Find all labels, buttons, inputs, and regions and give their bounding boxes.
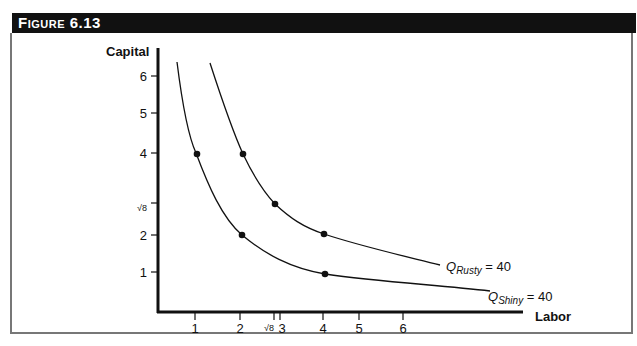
- data-point: [239, 232, 246, 239]
- isoquant-chart: Capital Labor 6 5 4 √8 2 1 1 2 √8 3 4 5 …: [0, 0, 637, 346]
- shiny-q: Q: [488, 289, 498, 304]
- data-point: [240, 151, 247, 158]
- x-ticks: 1 2 √8 3 4 5 6: [191, 312, 406, 336]
- x-tick-label: 5: [355, 321, 362, 336]
- data-point: [322, 271, 329, 278]
- rusty-q: Q: [446, 259, 456, 274]
- x-axis-label: Labor: [535, 309, 571, 324]
- x-tick-label: 6: [399, 321, 406, 336]
- x-tick-label: 2: [236, 321, 243, 336]
- rusty-subscript: Rusty: [456, 265, 483, 276]
- y-tick-label: 2: [140, 228, 147, 243]
- x-tick-label: 3: [278, 321, 285, 336]
- y-tick-label: 6: [140, 69, 147, 84]
- data-point: [321, 231, 328, 238]
- shiny-eq: = 40: [523, 289, 552, 304]
- y-tick-label: 4: [140, 146, 147, 161]
- y-tick-label: 5: [140, 106, 147, 121]
- rusty-curve-label: QRusty = 40: [446, 259, 511, 276]
- data-point: [194, 151, 201, 158]
- x-tick-label: 1: [191, 321, 198, 336]
- x-tick-label: 4: [319, 321, 326, 336]
- y-axis-label: Capital: [106, 44, 149, 59]
- shiny-points: [194, 151, 329, 278]
- data-point: [272, 201, 279, 208]
- shiny-subscript: Shiny: [498, 295, 524, 306]
- rusty-points: [240, 151, 328, 238]
- shiny-curve-label: QShiny = 40: [488, 289, 552, 306]
- y-tick-label: 1: [140, 265, 147, 280]
- y-tick-label: √8: [137, 203, 147, 213]
- y-ticks: 6 5 4 √8 2 1: [137, 69, 158, 280]
- rusty-eq: = 40: [482, 259, 511, 274]
- isoquant-shiny-curve: [177, 62, 490, 291]
- x-tick-label: √8: [264, 323, 274, 333]
